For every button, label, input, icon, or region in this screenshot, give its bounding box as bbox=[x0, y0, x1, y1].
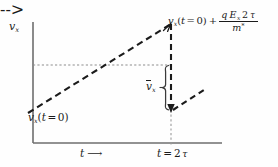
y-axis-label-subscript: x bbox=[15, 26, 19, 34]
figure-root: vx vx(t=0) vx(t=0) + qEx2τ m* vx --> t⟶ … bbox=[0, 0, 278, 167]
average-v-symbol: v bbox=[146, 80, 152, 92]
initial-velocity-label: vx(t=0) bbox=[28, 112, 69, 124]
acceleration-ramp-line bbox=[28, 24, 171, 113]
drift-term-fraction: qEx2τ m* bbox=[219, 10, 257, 33]
x-axis-tick-label: t=2τ bbox=[157, 148, 187, 159]
right-arrow-icon: ⟶ bbox=[84, 148, 102, 159]
y-axis-label: vx bbox=[9, 21, 19, 34]
numerator-charge-symbol: q bbox=[221, 9, 228, 20]
x-axis-label: t⟶ bbox=[80, 148, 102, 159]
tick-tau-symbol: τ bbox=[181, 148, 188, 159]
tick-value: 2 bbox=[174, 147, 181, 159]
final-expression-left: vx(t=0) bbox=[168, 16, 207, 27]
average-v-subscript: x bbox=[152, 86, 156, 94]
average-velocity-label: vx bbox=[146, 81, 156, 93]
average-velocity-brace bbox=[162, 66, 168, 110]
final-plus-sign: + bbox=[208, 16, 218, 26]
average-v-symbol-overbar: v bbox=[146, 81, 152, 92]
numerator-field-symbol: E bbox=[228, 9, 237, 20]
next-ramp-segment-line bbox=[173, 88, 207, 110]
initial-equals-sign: = bbox=[46, 111, 58, 123]
final-velocity-label: vx(t=0) + qEx2τ m* bbox=[168, 10, 258, 33]
fraction-numerator: qEx2τ bbox=[219, 10, 257, 21]
denominator-mass-symbol: m bbox=[232, 22, 241, 33]
denominator-effective-star: * bbox=[241, 22, 244, 30]
final-equals-sign: = bbox=[185, 15, 196, 26]
numerator-two: 2 bbox=[240, 9, 248, 20]
numerator-tau-symbol: τ bbox=[249, 10, 256, 20]
initial-close-paren: ) bbox=[64, 111, 68, 123]
final-close-paren: ) bbox=[203, 15, 207, 26]
fraction-denominator: m* bbox=[230, 23, 246, 33]
tick-equals-sign: = bbox=[161, 147, 174, 159]
